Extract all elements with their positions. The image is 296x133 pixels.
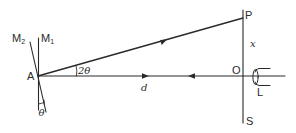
- theta-tick-right: [44, 100, 45, 105]
- label-scale-s: S: [246, 115, 253, 127]
- reflected-ray-ap: [38, 18, 243, 76]
- label-lens-l: L: [257, 86, 263, 98]
- optical-lever-diagram: M2 M1 A 2θ θ d P x O L S: [0, 0, 296, 133]
- arrow-left-icon: [188, 73, 195, 78]
- arrow-right-icon: [142, 73, 149, 78]
- two-theta-angle-arc: [76, 66, 77, 77]
- arrow-up-right-icon: [160, 40, 167, 45]
- label-displacement-x: x: [250, 38, 256, 49]
- label-point-o: O: [232, 64, 241, 76]
- label-distance-d: d: [141, 82, 147, 93]
- label-m2: M2: [12, 32, 25, 45]
- theta-angle-arc: [39, 103, 45, 105]
- label-point-a: A: [27, 70, 35, 82]
- label-two-theta: 2θ: [77, 65, 90, 76]
- label-theta: θ: [39, 107, 45, 118]
- label-point-p: P: [245, 9, 252, 21]
- label-m1: M1: [41, 32, 54, 45]
